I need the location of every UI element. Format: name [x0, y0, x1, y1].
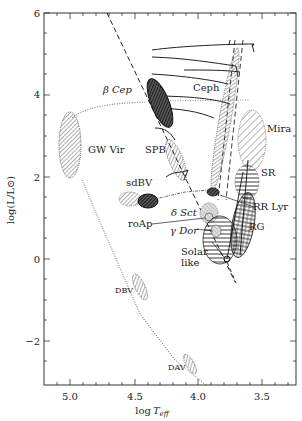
rr-lyr-region	[207, 188, 219, 196]
y-tick-label: 2	[34, 172, 40, 183]
label-gw-vir: GW Vir	[88, 144, 125, 155]
x-axis-title-sub: eff	[160, 410, 170, 418]
label-mira: Mira	[267, 123, 291, 134]
gw-vir-region	[59, 112, 81, 178]
label-beta-cep: β Cep	[102, 84, 133, 95]
x-tick-label: 4.5	[127, 391, 143, 402]
x-tick-label: 4.0	[190, 391, 206, 402]
solar-like-region	[203, 216, 237, 264]
sdbv-right-region	[138, 194, 158, 208]
y-tick-label: 4	[34, 89, 40, 100]
y-tick-label: 0	[34, 254, 40, 265]
label-gamma-dor: γ Dor	[170, 225, 199, 236]
y-axis-title: log(L/L⊙)	[5, 176, 16, 225]
x-axis-title: logTeff	[135, 405, 169, 418]
y-tick-label: 6	[34, 8, 40, 19]
label-solar-like-line1: Solar	[181, 246, 208, 257]
label-roap: roAp	[128, 218, 152, 229]
gw-vir-connector-line	[72, 102, 146, 118]
label-spb: SPB	[145, 144, 166, 155]
beta-cep-region	[142, 76, 178, 131]
label-dav: DAV	[168, 363, 186, 372]
label-sr: SR	[261, 167, 276, 178]
x-tick-label: 3.5	[254, 391, 270, 402]
main-sequence-tail	[227, 262, 236, 283]
x-tick-label: 5.0	[62, 391, 78, 402]
y-tick-label: −2	[25, 336, 40, 347]
label-sdbv: sdBV	[126, 177, 153, 188]
plot-frame	[44, 13, 296, 385]
label-solar-like-line2: like	[181, 257, 199, 268]
hr-diagram: 6 4 2 0 −2 5.0 4.5 4.0 3.5 logTeff log(L…	[0, 0, 302, 421]
label-rg: RG	[249, 221, 265, 232]
mira-region	[238, 110, 266, 170]
label-delta-sct: δ Sct	[171, 207, 198, 218]
sdbv-left-region	[119, 192, 141, 206]
label-ceph: Ceph	[193, 82, 220, 93]
x-axis-title-log: log	[135, 405, 151, 416]
label-dbv: DBV	[115, 286, 133, 295]
label-rr-lyr: RR Lyr	[253, 201, 288, 212]
